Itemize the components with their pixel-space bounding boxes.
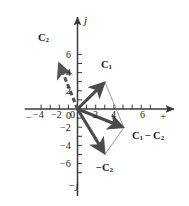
- x-tick-label-4: 4: [111, 110, 116, 120]
- diff-label-base1: C: [132, 130, 140, 141]
- vector-label-c2-base: C: [38, 32, 46, 43]
- x-tick-label--2: −2: [51, 110, 62, 120]
- y-axis-negative-name: −j: [68, 180, 78, 191]
- vector-diagram-figure: − −4 −2 0 2 4 6 + 6 4 2 0 −2 −4 −6 j −j …: [0, 0, 189, 206]
- y-axis-name: j: [84, 15, 87, 26]
- vector-c1: [78, 83, 104, 109]
- x-tick-label-6: 6: [140, 110, 145, 120]
- plot-canvas: [0, 0, 189, 206]
- vector-label-minus-c2-base: −C: [96, 162, 110, 173]
- x-axis-name: +: [160, 111, 166, 122]
- vector-label-c2-sub: 2: [46, 36, 50, 44]
- diff-label-base2: C: [153, 130, 161, 141]
- vector-label-c1-base: C: [101, 59, 109, 70]
- y-tick-label-4: 4: [66, 68, 71, 78]
- y-tick-label--6: −6: [60, 159, 71, 169]
- y-tick-label--4: −4: [60, 141, 71, 151]
- construction-line-minusc2-to-difference: [105, 128, 124, 155]
- x-tick-label-2: 2: [93, 110, 98, 120]
- vector-label-c2: C2: [38, 33, 49, 44]
- vector-label-c1-sub: 1: [109, 63, 113, 71]
- vector-label-minus-c2: −C2: [96, 163, 113, 174]
- vector-label-c1: C1: [101, 60, 112, 71]
- diff-label-operator: −: [143, 130, 153, 141]
- x-tick-label--4: −4: [33, 110, 44, 120]
- y-tick-label-0: 0: [66, 111, 71, 121]
- y-tick-label-2: 2: [66, 86, 71, 96]
- y-tick-label-6: 6: [66, 50, 71, 60]
- y-tick-label--2: −2: [60, 123, 71, 133]
- vector-label-c1-minus-c2: C1−C2: [132, 131, 164, 142]
- vector-label-minus-c2-sub: 2: [110, 166, 114, 174]
- diff-label-sub2: 2: [161, 134, 165, 142]
- x-axis-negative-marker: −: [26, 113, 32, 123]
